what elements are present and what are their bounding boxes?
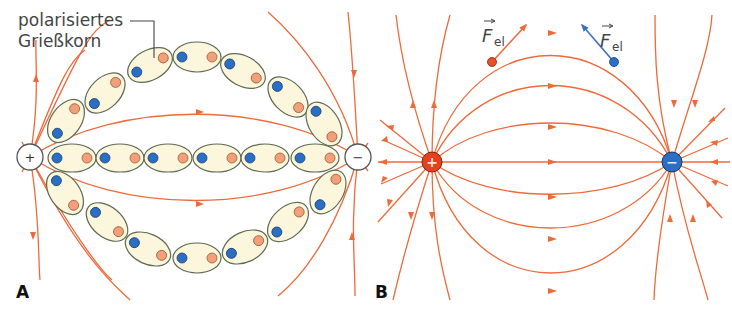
test-charge-positive bbox=[488, 58, 497, 67]
panel-b: F el F el + − B bbox=[375, 15, 730, 302]
panel-label-b: B bbox=[375, 282, 388, 302]
positive-sign-b: + bbox=[426, 154, 438, 170]
grains-middle-row bbox=[48, 144, 339, 172]
panel-label-a: A bbox=[16, 282, 30, 302]
grain-annotation: polarisiertes Grießkorn bbox=[18, 10, 154, 58]
vector-arrow-icon bbox=[602, 24, 613, 28]
negative-charge-b: − bbox=[662, 152, 682, 172]
negative-sign-b: − bbox=[666, 154, 678, 170]
force-label-right-sub: el bbox=[612, 40, 623, 54]
negative-electrode-a: − bbox=[345, 144, 371, 170]
positive-electrode-a: + bbox=[17, 144, 43, 170]
annotation-line-2: Grießkorn bbox=[18, 31, 101, 51]
negative-sign-a: − bbox=[353, 150, 364, 165]
positive-sign-a: + bbox=[25, 150, 36, 165]
annotation-line-1: polarisiertes bbox=[18, 10, 123, 30]
force-label-right-main: F bbox=[600, 30, 611, 51]
figure-canvas: + − polarisiertes Grießkorn A bbox=[0, 0, 732, 310]
positive-charge-b: + bbox=[422, 152, 442, 172]
test-charge-negative bbox=[610, 58, 619, 67]
grains-top-arc bbox=[40, 40, 349, 152]
force-label-left-main: F bbox=[482, 25, 493, 46]
force-label-right: F el bbox=[600, 24, 623, 54]
force-label-left-sub: el bbox=[494, 35, 505, 49]
panel-a: + − polarisiertes Grießkorn A bbox=[16, 10, 371, 302]
grains-bottom-arc bbox=[39, 164, 353, 273]
force-label-left: F el bbox=[482, 19, 505, 49]
vector-arrow-icon bbox=[484, 19, 495, 23]
